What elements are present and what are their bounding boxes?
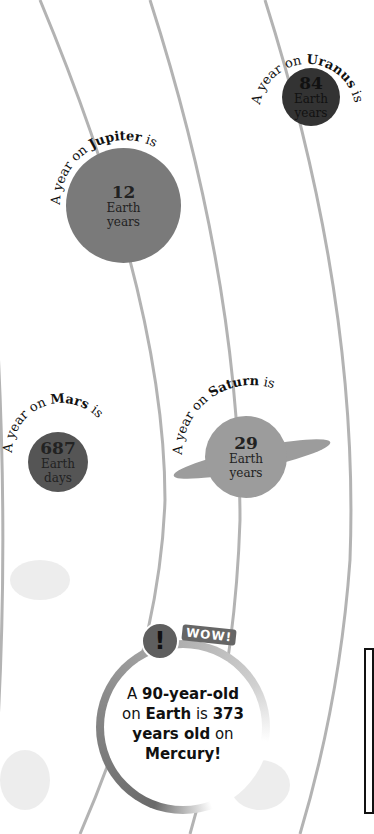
texture-speckle [0,750,50,810]
planet-jupiter: 12 Earth years [66,148,181,263]
saturn-unit: Earth years [221,452,271,480]
callout-body: A 90-year-old on Earth is 373 years old … [104,648,262,806]
wow-callout: A 90-year-old on Earth is 373 years old … [96,640,270,814]
jupiter-value: 12 [112,183,136,201]
jupiter-unit: Earth years [99,201,149,229]
texture-speckle [10,560,70,600]
mars-unit: Earth days [38,457,78,485]
mars-value: 687 [40,439,76,457]
uranus-unit: Earth years [291,92,331,120]
planet-saturn: 29 Earth years [205,416,287,498]
callout-text: A 90-year-old on Earth is 373 years old … [113,684,253,764]
planet-mars: 687 Earth days [28,432,88,492]
planet-uranus: 84 Earth years [282,68,340,126]
exclamation-icon: ! [141,622,179,660]
uranus-value: 84 [299,74,323,92]
saturn-value: 29 [234,434,258,452]
side-panel-edge [364,648,374,814]
